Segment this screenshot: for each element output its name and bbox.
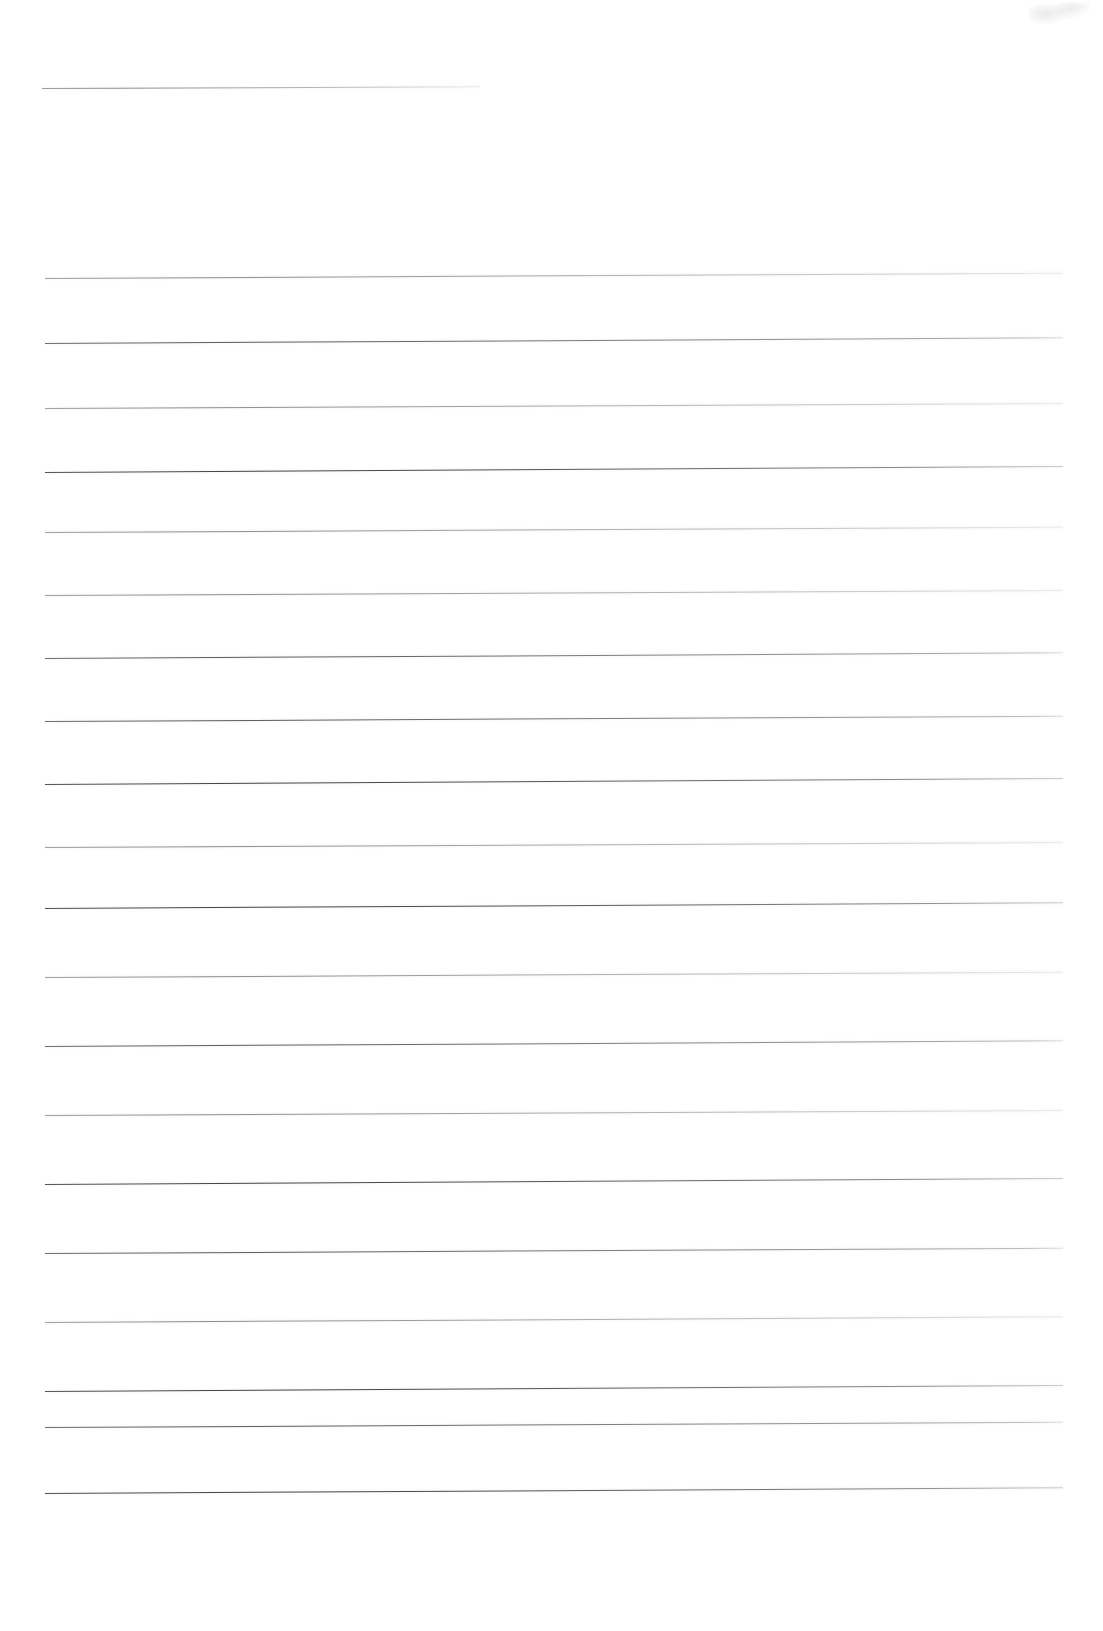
- ruled-line: [45, 778, 1063, 785]
- ruled-line: [45, 466, 1063, 473]
- ruled-line: [45, 972, 1063, 978]
- ruled-line: [45, 902, 1063, 909]
- ruled-line: [45, 273, 1063, 279]
- ruled-line: [45, 1178, 1063, 1185]
- ruled-line: [45, 403, 1063, 409]
- ruled-line: [45, 716, 1063, 722]
- ruled-line: [45, 1248, 1063, 1254]
- ruled-line: [45, 1040, 1063, 1047]
- ruled-line: [45, 652, 1063, 659]
- ruled-line: [45, 1487, 1063, 1494]
- ruled-line: [45, 842, 1063, 848]
- ruled-line: [45, 1110, 1063, 1116]
- ruled-line: [45, 590, 1063, 596]
- ruled-line: [45, 1422, 1063, 1428]
- ruled-line: [45, 1385, 1063, 1392]
- ruled-line: [45, 337, 1063, 344]
- scanned-page: [0, 0, 1103, 1631]
- ruled-line: [45, 527, 1063, 533]
- ruled-line: [45, 1316, 1063, 1323]
- header-rule: [42, 86, 480, 89]
- scan-smudge-icon: [1029, 2, 1089, 28]
